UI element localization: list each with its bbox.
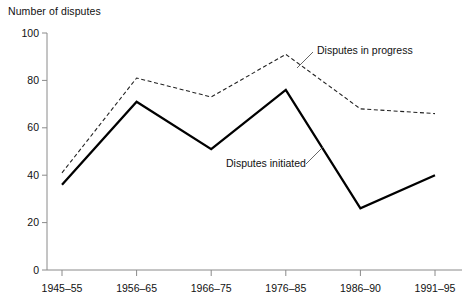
annotation-disputes-initiated: Disputes initiated: [226, 157, 306, 169]
x-axis-tick-label: 1966–75: [191, 282, 232, 294]
leader-line-in-progress: [297, 52, 313, 68]
chart-canvas: 020406080100 Disputes in progress Disput…: [0, 0, 465, 307]
leader-line-initiated: [306, 147, 323, 164]
x-axis-tick-group: [62, 270, 435, 276]
x-axis-tick-label: 1956–65: [116, 282, 157, 294]
x-axis-label-group: 1945–551956–651966–751976–851986–901991–…: [42, 282, 456, 294]
y-axis-tick-label: 100: [21, 27, 39, 39]
y-axis-tick-label: 40: [27, 169, 39, 181]
x-axis-tick-label: 1986–90: [340, 282, 381, 294]
y-axis-tick-label: 20: [27, 216, 39, 228]
x-axis-tick-label: 1976–85: [265, 282, 306, 294]
x-axis-tick-label: 1991–95: [415, 282, 456, 294]
y-axis-tick-label: 60: [27, 121, 39, 133]
series-line-disputes-in-progress: [62, 54, 435, 173]
y-axis-tick-label: 0: [33, 264, 39, 276]
annotation-disputes-in-progress: Disputes in progress: [317, 44, 413, 56]
line-chart: Number of disputes 020406080100 Disputes…: [0, 0, 465, 307]
series-line-disputes-initiated: [62, 90, 435, 209]
y-axis-tick-group: 020406080100: [21, 27, 47, 276]
y-axis-tick-label: 80: [27, 74, 39, 86]
x-axis-tick-label: 1945–55: [42, 282, 83, 294]
